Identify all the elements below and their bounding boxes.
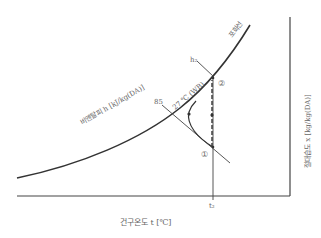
dashed-line-marker: [210, 113, 213, 116]
state-point-1: [212, 146, 215, 149]
wet-bulb-label: 27 ℃ (WB): [171, 80, 206, 111]
saturation-curve: [17, 25, 250, 178]
state-point-2: [212, 77, 215, 80]
psychrometric-diagram: 포화선 비엔탈피 h [kJ/kg(DA)] 85 27 ℃ (WB) h₂ ②…: [0, 0, 321, 238]
process-curve-marker: [187, 112, 190, 115]
process-curve: [189, 101, 213, 147]
t2-label: t₂: [209, 202, 215, 210]
enthalpy-line-h2: [197, 61, 214, 77]
saturation-line-label: 포화선: [226, 20, 244, 40]
enthalpy-axis-label: 비엔탈피 h [kJ/kg(DA)]: [79, 82, 147, 126]
point-1-label: ①: [201, 150, 208, 159]
x-axis-label: 건구온도 t [℃]: [120, 217, 172, 227]
enthalpy-85-label: 85: [154, 98, 163, 106]
y-axis-label: 절대습도 x [kg/kg(DA)]: [303, 94, 312, 168]
h2-label: h₂: [190, 56, 198, 64]
point-2-label: ②: [218, 79, 225, 88]
